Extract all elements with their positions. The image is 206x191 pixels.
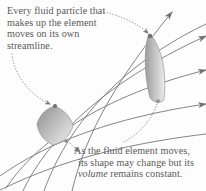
annotation-bottom-volume-word: volume: [78, 168, 108, 179]
downstream-top-vertex: [148, 34, 152, 38]
annotation-bottom-line2: its shape may change but its: [78, 157, 194, 169]
downstream-bottom-vertex: [156, 99, 160, 103]
annotation-top-line3: moves on its own: [7, 28, 79, 39]
annotation-bottom-line3-rest: remains constant.: [108, 168, 183, 179]
annotation-top-line4: streamline.: [7, 40, 53, 51]
leader-top-left: [12, 54, 50, 104]
annotation-bottom-line1: As the fluid element moves,: [74, 145, 194, 157]
upstream-bottom-vertex: [64, 139, 68, 143]
annotation-top-line2: makes up the element: [7, 17, 97, 28]
annotation-bottom: As the fluid element moves,its shape may…: [74, 145, 194, 180]
fluid-element-figure: Every fluid particle that makes up the e…: [0, 0, 206, 191]
fluid-element-downstream: [145, 34, 165, 103]
annotation-bottom-line3: volume remains constant.: [78, 168, 194, 180]
upstream-top-vertex: [53, 104, 57, 108]
downstream-element-body: [145, 35, 165, 103]
fluid-element-upstream: [37, 104, 73, 145]
leader-bottom-right: [124, 104, 157, 142]
leader-top-right: [104, 12, 148, 33]
annotation-top: Every fluid particle that makes up the e…: [7, 5, 105, 51]
annotation-top-line1: Every fluid particle that: [7, 5, 105, 16]
